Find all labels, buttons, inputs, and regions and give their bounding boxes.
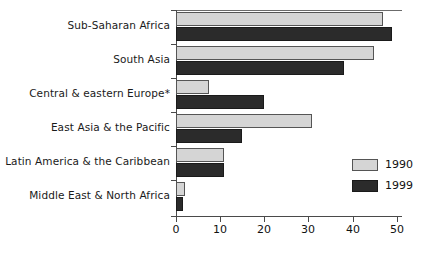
x-axis-tick [264,217,265,222]
bar-1999-sub-saharan-africa [176,27,392,41]
x-axis-tick [353,217,354,222]
y-axis-tick [171,146,176,147]
category-label-sub-saharan-africa: Sub-Saharan Africa [68,19,170,31]
light-gray-swatch-icon [352,159,378,171]
bar-1990-sub-saharan-africa [176,12,383,26]
legend-item-1999: 1999 [352,177,413,194]
bar-1990-east-asia-pacific [176,114,312,128]
y-axis-tick [171,44,176,45]
x-axis-tick-label-10: 10 [213,223,227,236]
bar-1990-latin-america-caribbean [176,148,224,162]
y-axis-tick [171,10,176,11]
y-axis-tick [171,78,176,79]
bar-chart: Sub-Saharan Africa South Asia Central & … [0,0,428,256]
category-label-latin-america-caribbean: Latin America & the Caribbean [5,155,170,167]
category-label-central-eastern-europe: Central & eastern Europe* [29,87,170,99]
legend-item-1990: 1990 [352,156,413,173]
category-label-middle-east-north-africa: Middle East & North Africa [29,189,170,201]
bar-1990-middle-east-north-africa [176,182,185,196]
bar-1999-middle-east-north-africa [176,197,183,211]
y-axis-tick [171,180,176,181]
category-label-east-asia-pacific: East Asia & the Pacific [51,121,170,133]
x-axis-tick [397,217,398,222]
x-axis-tick [176,217,177,222]
x-axis-tick [308,217,309,222]
legend-label-1990: 1990 [385,158,413,171]
bar-1990-central-eastern-europe [176,80,209,94]
bar-1990-south-asia [176,46,374,60]
bar-1999-south-asia [176,61,344,75]
bar-1999-latin-america-caribbean [176,163,224,177]
x-axis-tick-label-0: 0 [173,223,180,236]
x-axis-line [176,216,402,217]
x-axis-tick [220,217,221,222]
x-axis-tick-label-50: 50 [390,223,404,236]
chart-legend: 1990 1999 [352,156,413,198]
y-axis-tick [171,112,176,113]
bar-1999-central-eastern-europe [176,95,264,109]
x-axis-tick-label-20: 20 [257,223,271,236]
bar-1999-east-asia-pacific [176,129,242,143]
black-swatch-icon [352,180,378,192]
x-axis-tick-label-30: 30 [301,223,315,236]
x-axis-tick-label-40: 40 [346,223,360,236]
category-label-south-asia: South Asia [113,53,170,65]
legend-label-1999: 1999 [385,179,413,192]
